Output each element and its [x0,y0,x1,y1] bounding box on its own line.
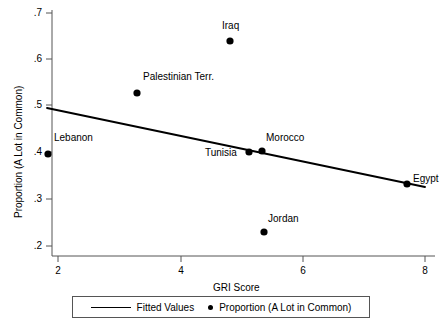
x-tick-marks [58,256,425,262]
x-tick-label-8: 8 [415,266,435,276]
x-tick-label-6: 6 [293,266,313,276]
y-axis-title: Proportion (A Lot in Common) [14,86,24,218]
data-point-egypt [403,180,410,187]
x-tick-label-2: 2 [48,266,68,276]
data-point-iraq [226,37,233,44]
y-tick-label-0.4: .4 [24,147,42,157]
chart-screenshot: .7 .6 .5 .4 .3 .2 2 4 6 8 Proportion (A … [0,0,439,323]
y-tick-marks [46,13,52,246]
x-axis-title: GRI Score [213,283,260,293]
point-label-jordan: Jordan [268,214,299,224]
data-points [44,37,410,235]
point-label-egypt: Egypt [413,174,439,184]
y-tick-label-0.3: .3 [24,194,42,204]
data-point-tunisia [245,148,252,155]
y-tick-label-0.6: .6 [24,54,42,64]
data-point-jordan [260,228,267,235]
legend-entry-proportion: Proportion (A Lot in Common) [208,302,351,313]
legend-label-proportion: Proportion (A Lot in Common) [219,302,351,313]
point-label-iraq: Iraq [222,21,239,31]
point-label-tunisia: Tunisia [205,148,237,158]
legend-line-icon [91,307,131,308]
y-tick-label-0.7: .7 [24,8,42,18]
legend-entry-fitted-values: Fitted Values [91,302,195,313]
point-label-morocco: Morocco [266,133,304,143]
scatter-plot: .7 .6 .5 .4 .3 .2 2 4 6 8 Proportion (A … [0,0,439,323]
legend-dot-icon [208,305,213,310]
point-label-lebanon: Lebanon [54,133,93,143]
data-point-palestinian-terr [133,89,140,96]
data-point-lebanon [44,150,51,157]
point-label-palestinian-terr: Palestinian Terr. [143,72,214,82]
chart-legend: Fitted Values Proportion (A Lot in Commo… [72,296,370,318]
x-tick-label-4: 4 [171,266,191,276]
y-tick-label-0.5: .5 [24,100,42,110]
data-point-morocco [258,147,265,154]
legend-label-fitted-values: Fitted Values [137,302,195,313]
y-tick-label-0.2: .2 [24,241,42,251]
